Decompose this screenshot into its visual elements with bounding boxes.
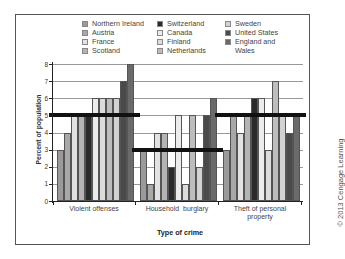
bar-austria [230, 115, 237, 201]
y-tick [49, 115, 53, 116]
legend-label: Finland [167, 37, 191, 46]
average-line [49, 113, 140, 117]
bar-northern-ireland [57, 150, 64, 201]
average-line [132, 148, 223, 152]
chart-legend: Northern IrelandAustriaFranceScotlandSwi… [82, 20, 302, 62]
legend-swatch [157, 21, 163, 27]
bar-netherlands [189, 115, 196, 201]
x-axis-title: Type of crime [120, 228, 240, 237]
legend-item: Northern Ireland [82, 20, 144, 28]
legend-swatch [225, 39, 231, 45]
bar-england-and-wales [127, 64, 134, 201]
bar-northern-ireland [140, 150, 147, 201]
bar-austria [147, 184, 154, 201]
bar-england-and-wales [293, 115, 300, 201]
legend-label: Netherlands [167, 46, 206, 55]
legend-item: Wales [225, 47, 255, 55]
legend-swatch [82, 39, 88, 45]
legend-item: Austria [82, 29, 114, 37]
category-label: Theft of personalproperty [220, 205, 300, 221]
x-tick [301, 201, 302, 205]
bar-sweden [196, 167, 203, 201]
bar-united-states [286, 133, 293, 202]
y-axis-title: Percent of population [35, 90, 42, 170]
legend-label: United States [235, 28, 278, 37]
bar-united-states [203, 115, 210, 201]
x-tick [135, 201, 136, 205]
x-axis [49, 201, 303, 202]
legend-item: Switzerland [157, 20, 204, 28]
bar-canada [175, 115, 182, 201]
legend-item: France [82, 38, 114, 46]
bar-finland [182, 184, 189, 201]
legend-label: Northern Ireland [92, 19, 144, 28]
bar-austria [64, 133, 71, 202]
legend-item: Scotland [82, 47, 120, 55]
y-tick [49, 184, 53, 185]
legend-item: Netherlands [157, 47, 206, 55]
legend-label: Wales [235, 46, 255, 55]
bar-finland [265, 150, 272, 201]
x-tick [218, 201, 219, 205]
legend-label: Switzerland [167, 19, 204, 28]
bar-france [154, 133, 161, 202]
bar-scotland [78, 115, 85, 201]
y-tick-label: 0 [40, 198, 48, 205]
legend-swatch [225, 21, 231, 27]
y-tick-label: 8 [40, 61, 48, 68]
legend-item: Finland [157, 38, 191, 46]
legend-item: Canada [157, 29, 192, 37]
legend-label: Scotland [92, 46, 120, 55]
bar-france [71, 115, 78, 201]
legend-swatch [225, 30, 231, 36]
legend-swatch [82, 48, 88, 54]
bar-sweden [279, 115, 286, 201]
bar-netherlands [272, 81, 279, 201]
category-label: Violent offenses [54, 205, 134, 213]
legend-swatch [157, 30, 163, 36]
legend-item: Sweden [225, 20, 261, 28]
average-line [215, 113, 306, 117]
y-tick [49, 133, 53, 134]
bar-france [237, 133, 244, 202]
y-tick [49, 81, 53, 82]
category-label: Household burglary [137, 205, 217, 213]
bar-switzerland [85, 115, 92, 201]
y-tick-label: 1 [40, 180, 48, 187]
legend-swatch [157, 39, 163, 45]
plot-area [53, 64, 303, 201]
y-tick-label: 7 [40, 78, 48, 85]
legend-item: United States [225, 29, 278, 37]
bar-northern-ireland [223, 150, 230, 201]
y-tick [49, 98, 53, 99]
y-tick [49, 64, 53, 65]
legend-label: France [92, 37, 114, 46]
legend-swatch [82, 30, 88, 36]
legend-swatch [82, 21, 88, 27]
bar-scotland [244, 115, 251, 201]
legend-label: England and [235, 37, 275, 46]
copyright-text: © 2013 Cengage Learning [336, 123, 345, 243]
y-tick [49, 167, 53, 168]
bar-united-states [120, 81, 127, 201]
legend-item: England and [225, 38, 275, 46]
legend-label: Sweden [235, 19, 261, 28]
bar-scotland [161, 133, 168, 202]
legend-label: Austria [92, 28, 114, 37]
bar-switzerland [168, 167, 175, 201]
legend-swatch [157, 48, 163, 54]
legend-label: Canada [167, 28, 192, 37]
y-tick [49, 150, 53, 151]
